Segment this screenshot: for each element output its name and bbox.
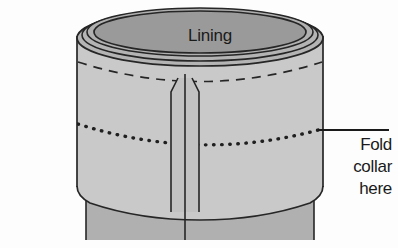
callout-line-1: Fold <box>318 134 392 156</box>
callout-line-2: collar <box>318 156 392 178</box>
lining-label: Lining <box>150 26 270 46</box>
fold-collar-callout: Fold collar here <box>318 134 392 200</box>
callout-line-3: here <box>318 178 392 200</box>
illustration-page: Lining Fold collar here <box>0 0 398 248</box>
